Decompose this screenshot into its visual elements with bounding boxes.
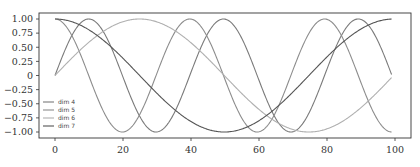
legend: dim 4dim 5dim 6dim 7 [43, 98, 75, 129]
x-tick-label: 40 [185, 144, 197, 155]
line-chart: 020406080100 1.000.750.500.250−0.25−0.50… [0, 0, 420, 167]
legend-label: dim 5 [58, 106, 75, 113]
y-tick-label: −0.50 [4, 98, 33, 109]
y-tick-label: −0.75 [4, 112, 33, 123]
legend-label: dim 4 [58, 98, 75, 105]
y-tick-label: 1.00 [12, 13, 33, 24]
y-tick-label: 0.25 [12, 56, 33, 67]
y-tick-label: 0 [27, 70, 33, 81]
y-tick-label: −1.00 [4, 126, 33, 137]
y-tick-label: −0.25 [4, 84, 33, 95]
x-tick-label: 100 [386, 144, 404, 155]
x-tick-label: 0 [52, 144, 58, 155]
x-tick-label: 60 [253, 144, 265, 155]
legend-label: dim 7 [58, 122, 75, 129]
y-tick-label: 0.75 [12, 27, 33, 38]
y-axis: 1.000.750.500.250−0.25−0.50−0.75−1.00 [4, 13, 39, 137]
plot-curves [55, 19, 392, 132]
x-axis: 020406080100 [52, 138, 404, 155]
x-tick-label: 80 [321, 144, 333, 155]
legend-label: dim 6 [58, 114, 75, 121]
y-tick-label: 0.50 [12, 42, 33, 53]
x-tick-label: 20 [117, 144, 129, 155]
